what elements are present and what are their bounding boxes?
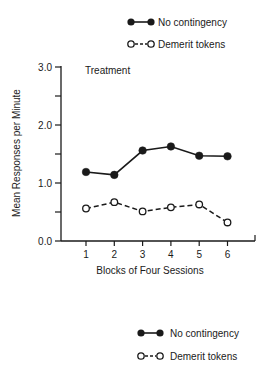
legend-label: No contingency [158,17,227,28]
series-no-contingency [82,143,231,179]
data-series [82,143,231,226]
data-point [111,199,118,206]
x-tick-label: 2 [112,249,118,260]
y-tick-label: 3.0 [38,62,52,73]
data-point [167,143,175,151]
axes: 0.01.02.03.0 123456 [38,62,255,261]
y-tick-label: 1.0 [38,178,52,189]
filled-circle-icon [137,329,144,336]
data-point [82,168,90,176]
data-point [111,171,119,179]
x-tick-label: 1 [83,249,89,260]
legend-label: No contingency [170,328,239,339]
filled-circle-icon [147,18,154,25]
open-circle-icon [157,353,163,359]
filled-circle-icon [127,18,134,25]
legend-label: Demerit tokens [170,351,237,362]
data-point [83,205,90,212]
legend-item-no-contingency: No contingency [137,328,239,339]
series-demerit-tokens [83,199,231,226]
data-point [139,147,147,155]
x-tick-label: 3 [140,249,146,260]
chart-title: Treatment [85,65,130,76]
x-axis-label: Blocks of Four Sessions [96,265,203,276]
x-tick-label: 4 [168,249,174,260]
data-point [139,208,146,215]
line-chart: No contingency Demerit tokens 0.01.02.03… [0,0,266,371]
legend-item-no-contingency: No contingency [127,17,227,28]
open-circle-icon [138,353,144,359]
y-tick-label: 0.0 [38,236,52,247]
open-circle-icon [148,41,154,47]
data-point [195,152,203,160]
y-axis-label: Mean Responses per Minute [11,89,22,217]
x-tick-label: 5 [196,249,202,260]
legend-item-demerit-tokens: Demerit tokens [138,351,237,362]
filled-circle-icon [156,329,163,336]
data-point [168,204,175,211]
legend-label: Demerit tokens [158,39,225,50]
legend-item-demerit-tokens: Demerit tokens [128,39,225,50]
legend-bottom: No contingency Demerit tokens [137,328,239,362]
data-point [224,153,232,161]
data-point [224,219,231,226]
open-circle-icon [128,41,134,47]
data-point [196,201,203,208]
legend-top: No contingency Demerit tokens [127,17,227,50]
y-tick-label: 2.0 [38,120,52,131]
x-tick-label: 6 [225,249,231,260]
